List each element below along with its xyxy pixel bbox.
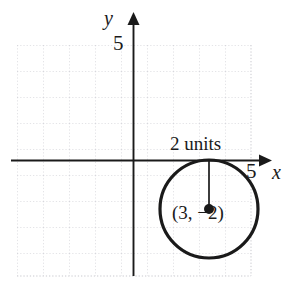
coordinate-plane-canvas <box>0 0 293 283</box>
center-coordinates-label: (3, −2) <box>172 203 224 222</box>
x-axis-tick-label-5: 5 <box>246 161 257 182</box>
arrow-right-icon <box>259 155 272 167</box>
y-axis-label: y <box>104 8 113 28</box>
arrow-up-icon <box>128 12 140 25</box>
radius-annotation-label: 2 units <box>170 134 221 153</box>
x-axis-label: x <box>272 162 281 182</box>
graph-figure: y x 5 5 2 units (3, −2) <box>0 0 293 283</box>
y-axis-tick-label-5: 5 <box>113 33 124 54</box>
